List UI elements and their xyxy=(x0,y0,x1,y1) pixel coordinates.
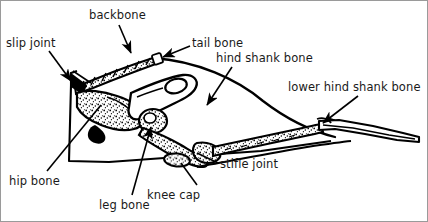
leader-lower-hind-shank-bone xyxy=(323,96,358,123)
label-slip-joint: slip joint xyxy=(6,37,56,49)
label-knee-cap: knee cap xyxy=(147,189,200,201)
label-leg-bone: leg bone xyxy=(99,199,150,211)
label-tail-bone: tail bone xyxy=(192,37,243,49)
label-lower-hind-shank-bone: lower hind shank bone xyxy=(288,81,421,93)
label-stifle-joint: stifle joint xyxy=(220,158,278,170)
anatomy-illustration xyxy=(1,1,428,222)
leader-slip-joint xyxy=(49,51,71,81)
label-backbone: backbone xyxy=(89,9,146,21)
label-hip-bone: hip bone xyxy=(9,175,60,187)
lower-hind-shank-bone-shape xyxy=(317,118,419,142)
label-hind-shank-bone: hind shank bone xyxy=(216,52,313,64)
leader-backbone xyxy=(119,25,131,53)
bone-diagram-figure: backbone slip joint tail bone hind shank… xyxy=(0,0,428,222)
leader-tail-bone xyxy=(163,46,190,57)
hind-shank-bone-shape xyxy=(213,124,323,156)
leader-hind-shank-bone xyxy=(207,67,232,105)
skeleton-drawing xyxy=(69,53,419,168)
